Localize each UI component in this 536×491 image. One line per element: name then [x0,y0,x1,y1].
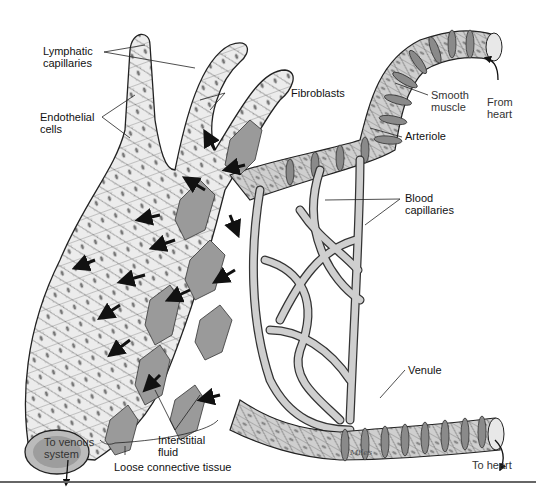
label-lymphatic-capillaries: Lymphatic capillaries [43,45,93,69]
label-smooth-muscle: Smooth muscle [431,89,469,113]
label-to-venous-system: To venous system [44,436,94,460]
label-from-heart: From heart [487,96,513,120]
label-blood-capillaries: Blood capillaries [405,192,454,216]
label-venule: Venule [408,364,442,376]
label-endothelial-cells: Endothelial cells [40,111,94,135]
arteriole [230,30,502,200]
signature: Miles [349,448,372,457]
lymphatic-capillary-diagram: Miles [0,0,536,491]
bottom-rule [0,481,536,483]
label-interstitial-fluid: Interstitial fluid [158,434,205,458]
label-loose-connective-tissue: Loose connective tissue [114,461,231,473]
label-to-heart: To heart [472,459,512,471]
label-arteriole: Arteriole [405,130,446,142]
label-fibroblasts: Fibroblasts [291,87,345,99]
